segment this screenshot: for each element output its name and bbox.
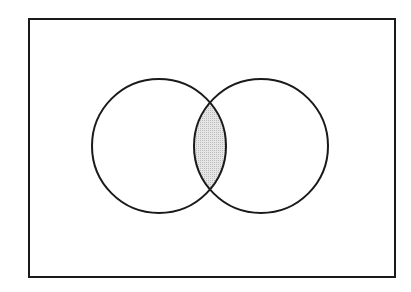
venn-diagram (0, 0, 411, 292)
